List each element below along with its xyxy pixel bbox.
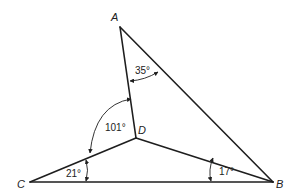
angle-label-17: 17° <box>219 166 234 177</box>
angle-label-21: 21° <box>66 168 81 179</box>
vertex-label-A: A <box>110 11 118 23</box>
segment-DB <box>136 138 273 182</box>
angle-arc-21 <box>86 160 88 181</box>
geometry-diagram: A D C B 35° 101° 21° 17° <box>0 0 298 196</box>
segment-AB <box>120 27 273 182</box>
vertex-label-B: B <box>276 178 283 190</box>
angle-label-35: 35° <box>135 65 150 76</box>
segment-CD <box>30 138 136 182</box>
vertex-label-C: C <box>17 178 25 190</box>
angle-label-101: 101° <box>105 122 126 133</box>
vertex-label-D: D <box>138 124 146 136</box>
